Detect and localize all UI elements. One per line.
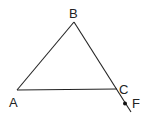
point-f-dot <box>123 102 127 106</box>
label-a: A <box>9 95 18 110</box>
label-f: F <box>132 96 140 111</box>
label-c: C <box>119 82 128 97</box>
segment-ab <box>17 22 74 90</box>
segment-ac <box>17 89 117 90</box>
triangle-diagram: B A C F <box>0 0 150 124</box>
segment-bc-extended <box>74 22 131 112</box>
label-b: B <box>69 6 78 21</box>
